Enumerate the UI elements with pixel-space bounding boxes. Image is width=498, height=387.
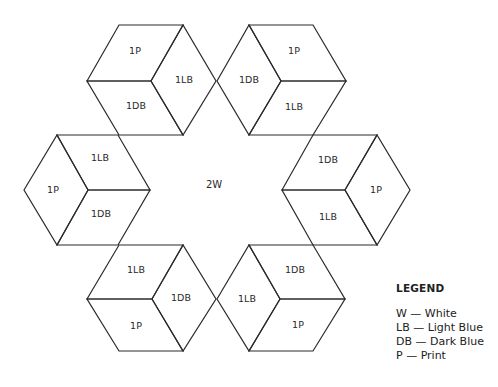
face-label: 1DB xyxy=(239,74,259,85)
legend-entry-print: P — Print xyxy=(396,349,484,363)
face-label: 1DB xyxy=(285,264,305,275)
face-label: 1LB xyxy=(319,211,337,222)
face-label: 1P xyxy=(129,45,141,56)
legend-entry-dark-blue: DB — Dark Blue xyxy=(396,335,484,349)
face-label: 1P xyxy=(292,319,304,330)
face-label: 1LB xyxy=(238,293,256,304)
center-star-label: 2W xyxy=(206,179,222,190)
face-label: 1P xyxy=(370,184,382,195)
cube-right: 1DB1P1LB xyxy=(282,135,410,245)
cube-bottom-left: 1LB1DB1P xyxy=(87,245,216,351)
legend-entry-light-blue: LB — Light Blue xyxy=(396,321,484,335)
face-label: 1LB xyxy=(175,74,193,85)
legend-title: LEGEND xyxy=(396,282,484,294)
face-label: 1P xyxy=(288,45,300,56)
face-label: 1LB xyxy=(127,264,145,275)
face-label: 1LB xyxy=(91,152,109,163)
face-label: 1P xyxy=(47,184,59,195)
cube-top-right: 1DB1P1LB xyxy=(217,25,346,135)
face-label: 1DB xyxy=(171,292,191,303)
cube-face xyxy=(57,135,150,190)
legend-entry-white: W — White xyxy=(396,307,484,321)
legend: LEGEND W — White LB — Light Blue DB — Da… xyxy=(396,282,484,363)
cube-left: 1P1LB1DB xyxy=(24,135,150,245)
face-label: 1DB xyxy=(318,154,338,165)
face-label: 1LB xyxy=(285,101,303,112)
cube-top-left: 1P1LB1DB xyxy=(87,25,216,135)
face-label: 1DB xyxy=(91,208,111,219)
face-label: 1DB xyxy=(126,100,146,111)
face-label: 1P xyxy=(130,320,142,331)
cube-bottom-right: 1LB1DB1P xyxy=(217,245,345,351)
